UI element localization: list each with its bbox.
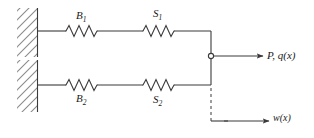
chain-top xyxy=(37,26,211,37)
spring-b2 xyxy=(66,80,97,91)
label-s2-subscript: 2 xyxy=(159,99,163,108)
label-spring-b2: B2 xyxy=(76,93,86,107)
label-spring-b1: B1 xyxy=(76,10,86,24)
figure-container: B1 S1 B2 S2 P, q(x) w(x) xyxy=(0,0,314,138)
label-b1-subscript: 1 xyxy=(83,15,87,24)
spring-s2 xyxy=(143,80,174,91)
label-load: P, q(x) xyxy=(267,50,296,61)
spring-b1 xyxy=(66,26,97,37)
wall-top-hatching xyxy=(4,0,42,96)
pin-joint-icon xyxy=(208,53,213,58)
chain-bottom xyxy=(37,80,211,91)
label-spring-s1: S1 xyxy=(153,8,162,22)
wall-bottom xyxy=(4,38,42,138)
label-b2-symbol: B xyxy=(76,92,83,104)
label-spring-s2: S2 xyxy=(153,94,162,108)
wall-top xyxy=(4,0,42,96)
wall-bottom-hatching xyxy=(4,38,42,138)
label-displacement: w(x) xyxy=(273,113,291,123)
label-b1-symbol: B xyxy=(76,9,83,21)
label-s1-subscript: 1 xyxy=(159,13,163,22)
spring-s1 xyxy=(143,26,174,37)
label-b2-subscript: 2 xyxy=(83,98,87,107)
